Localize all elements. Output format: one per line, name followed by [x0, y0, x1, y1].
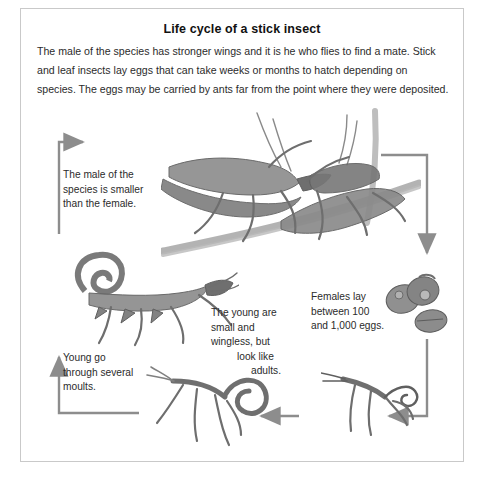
- note-line-5: adults.: [211, 364, 297, 379]
- diagram-page: Life cycle of a stick insect The male of…: [20, 8, 464, 462]
- note-male-size: The male of the species is smaller than …: [63, 168, 159, 212]
- note-line-4: look like: [211, 350, 297, 365]
- note-line-3: wingless, but: [211, 336, 270, 347]
- note-young-moults: Young go through several moults.: [63, 351, 143, 395]
- note-eggs-count: Females lay between 100 and 1,000 eggs.: [311, 290, 389, 334]
- stage-eggs: [379, 271, 459, 341]
- stage-nymph-right: [321, 357, 431, 447]
- note-line-1: The young: [211, 307, 259, 318]
- note-young-wingless: The young are small and wingless, but lo…: [211, 306, 297, 379]
- stage-mating-adults: [161, 105, 421, 265]
